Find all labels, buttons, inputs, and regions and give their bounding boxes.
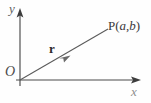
figure-canvas [0, 0, 151, 103]
position-vector-line [20, 29, 108, 80]
point-close-paren: ) [136, 18, 140, 33]
position-vector-figure: y x O r P(a,b) [0, 0, 151, 103]
origin-label: O [5, 65, 15, 79]
y-axis-label: y [9, 2, 15, 15]
x-axis-label: x [131, 85, 137, 98]
vector-label-r: r [49, 42, 55, 55]
point-label-P: P(a,b) [108, 19, 140, 32]
